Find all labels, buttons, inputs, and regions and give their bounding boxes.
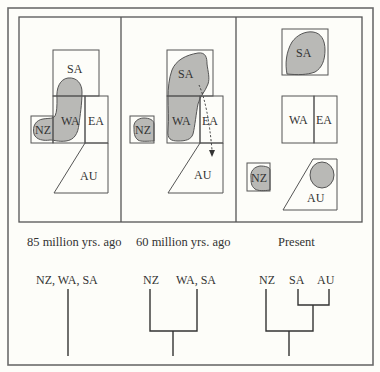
- tree3-tip-left: NZ: [259, 273, 275, 287]
- label-au: AU: [80, 169, 98, 183]
- range-blob-au: [310, 162, 334, 188]
- label-nz: NZ: [135, 123, 151, 137]
- tree2-tip-left: NZ: [143, 273, 159, 287]
- biogeography-figure: SA WA EA NZ AU SA WA EA NZ AU SA WA EA: [0, 0, 380, 372]
- label-wa: WA: [289, 113, 308, 127]
- label-au: AU: [194, 168, 212, 182]
- label-ea: EA: [316, 113, 332, 127]
- arrowhead-icon: [209, 150, 215, 157]
- label-wa: WA: [172, 114, 191, 128]
- panel-60-mya: SA WA EA NZ AU: [130, 50, 223, 193]
- label-ea: EA: [88, 114, 104, 128]
- label-sa: SA: [178, 67, 194, 81]
- label-sa: SA: [296, 46, 312, 60]
- label-wa: WA: [61, 114, 80, 128]
- caption-60-mya: 60 million yrs. ago: [136, 235, 230, 249]
- tree3-branches: [266, 289, 329, 356]
- label-nz: NZ: [35, 123, 51, 137]
- tree1-tip-label: NZ, WA, SA: [36, 273, 98, 287]
- tree3-tip-mid: SA: [289, 273, 305, 287]
- tree3-tip-right: AU: [317, 273, 335, 287]
- panel-85-mya: SA WA EA NZ AU: [31, 50, 108, 193]
- caption-present: Present: [278, 235, 315, 249]
- tree2-tip-right: WA, SA: [176, 273, 216, 287]
- tree2-branches: [150, 289, 197, 356]
- au-shape: [54, 143, 108, 193]
- caption-85-mya: 85 million yrs. ago: [27, 235, 121, 249]
- label-ea: EA: [202, 114, 218, 128]
- label-au: AU: [307, 191, 325, 205]
- label-sa: SA: [67, 62, 83, 76]
- panel-present: SA WA EA NZ AU: [247, 29, 337, 210]
- label-nz: NZ: [251, 171, 267, 185]
